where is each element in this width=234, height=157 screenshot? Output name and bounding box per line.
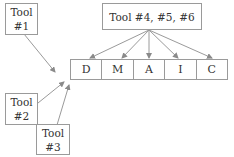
phase-define: D bbox=[71, 60, 102, 79]
tool-2-box: Tool #2 bbox=[5, 93, 38, 125]
phase-improve: I bbox=[165, 60, 196, 79]
phase-control: C bbox=[197, 60, 227, 79]
tool-3-label-line1: Tool bbox=[42, 126, 64, 140]
phase-measure: M bbox=[102, 60, 133, 79]
tool-2-label-line1: Tool bbox=[10, 95, 32, 109]
tool-3-label-line2: #3 bbox=[45, 140, 60, 154]
dmaic-phase-strip: D M A I C bbox=[70, 59, 228, 80]
tool-3-box: Tool #3 bbox=[36, 124, 70, 155]
tool-2-label-line2: #2 bbox=[14, 109, 29, 123]
tool-4-5-6-box: Tool #4, #5, #6 bbox=[102, 3, 202, 30]
tool-4-5-6-label: Tool #4, #5, #6 bbox=[109, 10, 194, 24]
tool-1-label-line1: Tool bbox=[10, 5, 32, 19]
tool-1-label-line2: #1 bbox=[14, 19, 29, 33]
phase-analyze: A bbox=[134, 60, 165, 79]
tool-1-box: Tool #1 bbox=[5, 3, 38, 35]
